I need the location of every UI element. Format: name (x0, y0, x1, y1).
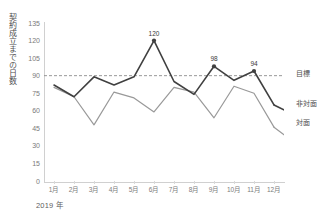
x-tick-mark (194, 181, 195, 184)
data-point-marker (252, 69, 256, 73)
y-tick-label: 0 (20, 178, 40, 185)
x-tick-mark (74, 181, 75, 184)
x-tick-mark (54, 181, 55, 184)
x-tick-mark (254, 181, 255, 184)
y-tick-label: 120 (20, 37, 40, 44)
y-axis-tick-labels: 1351201059075604530150 (18, 9, 40, 184)
x-axis-line (44, 182, 285, 183)
x-axis-title: 2019 年 (36, 201, 63, 210)
series-line (54, 41, 274, 105)
y-tick-label: 45 (20, 125, 40, 132)
series-line (54, 86, 274, 127)
series-label-face-to-face: 対面 (296, 119, 310, 127)
data-point-label: 98 (202, 55, 226, 62)
y-axis-title: 契約成立までの日数 (3, 13, 16, 118)
series-leader-line (274, 127, 284, 136)
cropped-header-strip (0, 0, 326, 9)
data-point-label: 120 (142, 30, 166, 37)
series-leader-line (274, 105, 284, 111)
y-tick-label: 105 (20, 55, 40, 62)
x-tick-mark (214, 181, 215, 184)
plot-area: 1209894 (44, 23, 284, 181)
y-tick-label: 60 (20, 107, 40, 114)
x-tick-mark (174, 181, 175, 184)
y-tick-label: 15 (20, 160, 40, 167)
data-point-label: 94 (242, 60, 266, 67)
y-tick-label: 90 (20, 72, 40, 79)
data-point-marker (212, 64, 216, 68)
line-chart: 契約成立までの日数 1351201059075604530150 1209894… (0, 9, 326, 218)
x-tick-mark (274, 181, 275, 184)
x-tick-label: 12月 (261, 186, 287, 194)
x-tick-mark (134, 181, 135, 184)
x-tick-mark (234, 181, 235, 184)
x-tick-mark (114, 181, 115, 184)
y-tick-label: 30 (20, 142, 40, 149)
data-point-marker (152, 38, 156, 42)
x-tick-mark (154, 181, 155, 184)
series-canvas (44, 23, 284, 181)
series-label-non-face-to-face: 非対面 (296, 100, 317, 108)
x-axis-tick-labels: 1月2月3月4月5月6月7月8月9月10月11月12月 (44, 186, 290, 198)
y-tick-label: 75 (20, 90, 40, 97)
series-label-target: 目標 (296, 70, 310, 78)
x-tick-mark (94, 181, 95, 184)
y-tick-label: 135 (20, 20, 40, 27)
